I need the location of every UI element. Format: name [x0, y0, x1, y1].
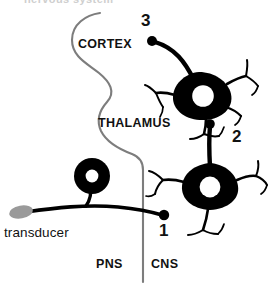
neuron-3-dendrite-stub — [226, 107, 241, 125]
neuron-2-axon — [209, 126, 210, 167]
neuron-3-dendrite-bottom — [190, 119, 224, 139]
neuron-2-dendrite-bottom — [188, 209, 224, 235]
neuron-1-order-label: 1 — [159, 222, 168, 239]
neuron-3-axon-terminal — [147, 36, 157, 46]
neuron-3-dendrite-upper-right — [227, 60, 258, 95]
neuron-3-nucleus — [192, 85, 214, 107]
transducer-label: transducer — [4, 226, 69, 240]
diagram-canvas — [0, 0, 269, 285]
region-label-thalamus: THALAMUS — [98, 117, 171, 130]
neuron-1-axon-terminal — [159, 210, 169, 220]
neuron-3-dendrite-left — [145, 85, 175, 117]
side-label-pns: PNS — [96, 258, 123, 271]
neuron-1-group — [26, 158, 169, 220]
neuron-2-order-label: 2 — [232, 128, 241, 145]
neuron-2-dendrite-left — [146, 171, 184, 196]
transducer-group — [8, 204, 34, 221]
side-label-cns: CNS — [151, 258, 178, 271]
neuron-2-dendrite-right — [237, 161, 267, 194]
transducer-ellipse — [8, 204, 34, 221]
clipped-title: nervous system — [24, 0, 113, 5]
neuron-2-nucleus — [200, 177, 221, 198]
neuron-3-axon — [155, 42, 194, 80]
region-label-cortex: CORTEX — [78, 38, 132, 51]
neuron-1-axon — [26, 206, 162, 215]
neuron-3-order-label: 3 — [141, 12, 150, 29]
sensory-pathway-diagram: nervous system CORTEX THALAMUS PNS CNS 1… — [0, 0, 269, 285]
pns-cns-boundary-line — [72, 13, 143, 282]
neuron-1-nucleus — [86, 170, 99, 183]
